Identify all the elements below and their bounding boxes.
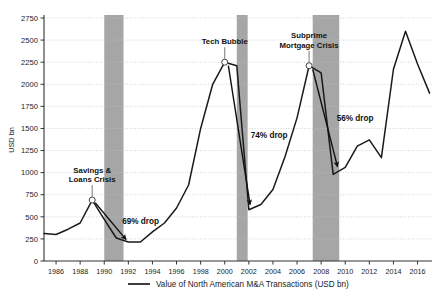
x-tick-label-1998: 1998	[193, 267, 209, 276]
x-tick-label-2004: 2004	[265, 267, 281, 276]
x-tick-label-1992: 1992	[120, 267, 136, 276]
annotation-peak-marker	[222, 59, 228, 65]
ma-transactions-line-chart: 0250500750100012501500175020002250250027…	[0, 0, 440, 302]
x-tick-label-1990: 1990	[96, 267, 112, 276]
y-tick-label-1000: 1000	[21, 168, 38, 177]
annotation-drop-label: 69% drop	[122, 217, 159, 226]
annotation-label-line1: Subprime	[291, 31, 328, 40]
x-tick-label-2012: 2012	[361, 267, 377, 276]
y-tick-label-1500: 1500	[21, 124, 38, 133]
y-tick-label-1750: 1750	[21, 102, 38, 111]
chart-container: 0250500750100012501500175020002250250027…	[0, 0, 440, 302]
x-tick-label-1994: 1994	[144, 267, 160, 276]
chart-legend: Value of North American M&A Transactions…	[128, 280, 349, 289]
annotation-label-line1: Savings &	[73, 166, 111, 175]
x-tick-label-2006: 2006	[289, 267, 305, 276]
subprime-band	[313, 15, 340, 261]
annotation-label-line2: Mortgage Crisis	[280, 41, 340, 50]
x-tick-label-1996: 1996	[169, 267, 185, 276]
y-tick-label-0: 0	[34, 257, 38, 266]
x-tick-label-2002: 2002	[241, 267, 257, 276]
x-tick-label-2010: 2010	[337, 267, 353, 276]
x-tick-label-2014: 2014	[385, 267, 401, 276]
y-axis-label: USD bn	[7, 127, 16, 153]
x-tick-label-1988: 1988	[72, 267, 88, 276]
annotation-label-line2: Loans Crisis	[69, 175, 116, 184]
x-tick-label-2008: 2008	[313, 267, 329, 276]
legend-label: Value of North American M&A Transactions…	[156, 280, 349, 289]
y-tick-label-2500: 2500	[21, 36, 38, 45]
y-tick-label-2750: 2750	[21, 14, 38, 23]
annotation-peak-marker	[89, 197, 95, 203]
y-tick-label-500: 500	[25, 213, 38, 222]
x-tick-label-1986: 1986	[48, 267, 64, 276]
annotation-label-line1: Tech Bubble	[202, 37, 249, 46]
x-tick-label-2000: 2000	[217, 267, 233, 276]
annotation-peak-marker	[306, 63, 312, 69]
x-tick-label-2016: 2016	[410, 267, 426, 276]
annotation-drop-label: 74% drop	[251, 131, 288, 140]
y-tick-label-1250: 1250	[21, 146, 38, 155]
annotation-drop-label: 56% drop	[337, 114, 374, 123]
y-tick-label-2000: 2000	[21, 80, 38, 89]
y-tick-label-750: 750	[25, 190, 38, 199]
y-tick-label-250: 250	[25, 235, 38, 244]
y-tick-label-2250: 2250	[21, 58, 38, 67]
